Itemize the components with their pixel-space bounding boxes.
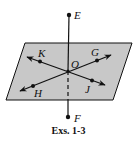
point-J <box>90 79 94 83</box>
label-G: G <box>91 46 99 58</box>
point-F <box>66 115 70 119</box>
label-F: F <box>73 112 81 124</box>
geometry-figure: E F K G O H J Exs. 1-3 <box>0 0 137 141</box>
point-O <box>66 69 69 72</box>
point-G <box>95 59 99 63</box>
label-E: E <box>73 9 81 21</box>
label-K: K <box>37 47 46 59</box>
label-H: H <box>33 87 43 99</box>
point-E <box>67 13 71 17</box>
point-K <box>38 60 42 64</box>
label-O: O <box>71 58 79 70</box>
figure-caption: Exs. 1-3 <box>52 125 86 136</box>
